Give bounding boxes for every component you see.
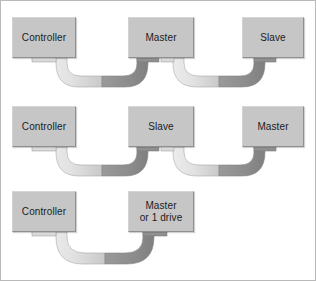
device-box-master-row2[interactable]: Master (242, 106, 304, 147)
cable-row1-left (32, 57, 159, 87)
device-label: Slave (260, 32, 286, 44)
device-label: Slave (148, 121, 174, 133)
device-label: Master (257, 121, 288, 133)
device-label: Controller (22, 32, 66, 44)
device-label: Master or 1 drive (140, 200, 183, 224)
device-box-controller-row2[interactable]: Controller (12, 106, 76, 147)
device-box-master-or-single-row3[interactable]: Master or 1 drive (128, 191, 194, 232)
device-box-controller-row3[interactable]: Controller (12, 191, 76, 232)
device-label: Master (145, 32, 176, 44)
cable-row2-right (161, 146, 276, 176)
device-box-slave-row1[interactable]: Slave (242, 17, 304, 58)
cable-row2-left (32, 146, 159, 176)
device-label: Controller (22, 121, 66, 133)
cable-row1-right (161, 57, 276, 87)
device-box-master-row1[interactable]: Master (128, 17, 194, 58)
diagram-canvas: Controller Master Slave Controller Slave… (0, 0, 316, 281)
device-label: Controller (22, 206, 66, 218)
device-box-slave-row2[interactable]: Slave (128, 106, 194, 147)
device-box-controller-row1[interactable]: Controller (12, 17, 76, 58)
cable-row3 (32, 231, 167, 264)
